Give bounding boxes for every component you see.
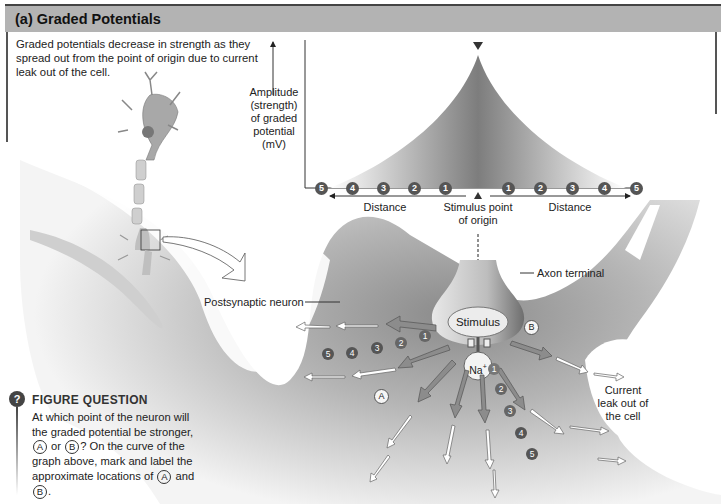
figure-question-title: FIGURE QUESTION bbox=[32, 393, 148, 407]
origin-label-line: of origin bbox=[438, 214, 518, 227]
down-number: 3 bbox=[504, 405, 516, 417]
left-distance-label: Distance bbox=[355, 201, 415, 214]
current-leak-line: the cell bbox=[592, 410, 654, 423]
left-number: 4 bbox=[346, 347, 358, 359]
y-axis-label-line: potential bbox=[244, 125, 304, 138]
left-number: 5 bbox=[322, 348, 334, 360]
current-leak-label: Current leak out of the cell bbox=[592, 384, 654, 423]
down-number: 4 bbox=[515, 427, 527, 439]
distance-marker: 1 bbox=[502, 182, 515, 195]
peak-marker-icon bbox=[473, 42, 483, 50]
distance-marker: 5 bbox=[315, 182, 328, 195]
channel-left-icon bbox=[468, 339, 474, 347]
circled-b: B bbox=[65, 440, 79, 454]
distance-marker: 1 bbox=[439, 182, 452, 195]
origin-label-line: Stimulus point bbox=[438, 201, 518, 214]
origin-marker-icon bbox=[474, 192, 482, 199]
postsynaptic-neuron-label: Postsynaptic neuron bbox=[204, 296, 304, 309]
stimulus-label: Stimulus bbox=[450, 316, 506, 329]
distance-marker: 3 bbox=[566, 182, 579, 195]
question-icon: ? bbox=[9, 391, 25, 407]
distance-marker: 2 bbox=[408, 182, 421, 195]
left-number: 2 bbox=[395, 337, 407, 349]
question-text: or bbox=[51, 440, 61, 452]
right-distance-label: Distance bbox=[540, 201, 600, 214]
axon-terminal-label: Axon terminal bbox=[537, 267, 604, 280]
distance-marker: 4 bbox=[346, 182, 359, 195]
left-number: 3 bbox=[371, 342, 383, 354]
down-number: 2 bbox=[495, 383, 507, 395]
distance-marker: 2 bbox=[534, 182, 547, 195]
y-axis-label: Amplitude (strength) of graded potential… bbox=[244, 86, 304, 151]
down-number: 5 bbox=[526, 448, 538, 460]
question-text: . bbox=[48, 485, 51, 497]
origin-label: Stimulus point of origin bbox=[438, 201, 518, 227]
channel-right-icon bbox=[484, 339, 490, 347]
current-leak-line: Current bbox=[592, 384, 654, 397]
circled-a: A bbox=[157, 470, 171, 484]
question-text: At which point of the neuron will the gr… bbox=[32, 411, 193, 438]
distance-marker: 5 bbox=[630, 182, 643, 195]
left-number: 1 bbox=[419, 330, 431, 342]
graded-potential-curve bbox=[330, 55, 626, 188]
circled-b: B bbox=[33, 485, 47, 499]
down-number: 1 bbox=[488, 363, 500, 375]
figure-question-body: At which point of the neuron will the gr… bbox=[32, 410, 202, 499]
distance-marker: 4 bbox=[598, 182, 611, 195]
y-axis-label-line: (strength) bbox=[244, 99, 304, 112]
question-rule bbox=[16, 407, 18, 495]
na-symbol: Na bbox=[469, 364, 482, 376]
na-charge: + bbox=[483, 363, 487, 370]
y-axis-label-line: Amplitude bbox=[244, 86, 304, 99]
point-b-marker: B bbox=[524, 320, 539, 335]
figure-frame: (a) Graded Potentials Graded potentials … bbox=[0, 0, 721, 504]
question-text: and bbox=[175, 470, 194, 482]
current-leak-line: leak out of bbox=[592, 397, 654, 410]
circled-a: A bbox=[33, 440, 47, 454]
y-axis-label-line: (mV) bbox=[244, 138, 304, 151]
point-a-marker: A bbox=[374, 389, 389, 404]
distance-marker: 3 bbox=[377, 182, 390, 195]
y-axis-label-line: of graded bbox=[244, 112, 304, 125]
